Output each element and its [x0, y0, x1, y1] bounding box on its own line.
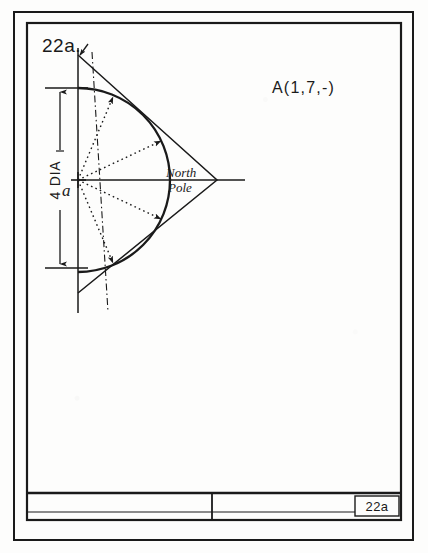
technical-drawing-canvas: 22a. A(1,7,-) 4 DIA a North Pole 22a [0, 0, 428, 553]
radial-ray-upper-shallow [78, 141, 161, 180]
figure-tag-label: 22a. [42, 35, 81, 56]
geometry-group [71, 48, 245, 313]
title-block-drawing-number: 22a [366, 499, 389, 514]
dimension-label-4-dia: 4 DIA [47, 160, 63, 199]
radial-ray-lower-shallow [78, 180, 161, 219]
north-pole-label-line2: Pole [167, 180, 192, 195]
title-block [27, 493, 401, 520]
radial-ray-lower-steep [78, 180, 113, 263]
center-point-label: a [62, 181, 71, 200]
sheet-border-outer [14, 12, 413, 540]
coordinate-tag-label: A(1,7,-) [272, 79, 335, 96]
figure-tag-leader [80, 44, 88, 55]
center-cross-mark [71, 172, 86, 188]
north-pole-label-line1: North [165, 165, 196, 180]
drawing-sheet: 22a. A(1,7,-) 4 DIA a North Pole 22a [0, 0, 428, 553]
radial-ray-upper-steep [78, 97, 113, 180]
